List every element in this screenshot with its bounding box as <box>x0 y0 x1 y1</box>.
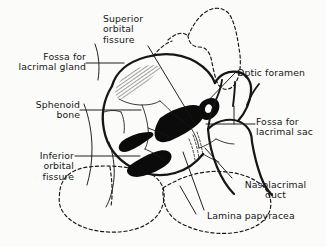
label-fossa-for-lacrimal-gland[interactable]: Fossa for lacrimal gland <box>2 52 86 73</box>
label-fossa-for-lacrimal-sac[interactable]: Fossa for lacrimal sac <box>256 117 326 138</box>
label-superior-orbital-fissure[interactable]: Superior orbital fissure <box>103 14 173 45</box>
label-lamina-papyracea[interactable]: Lamina papyracea <box>207 211 325 221</box>
inferior-orbital-fissure-shape <box>127 150 172 177</box>
orbit-anatomy-figure: Superior orbital fissure Fossa for lacri… <box>0 0 326 247</box>
leader-nasolacrimal-duct <box>205 148 232 178</box>
label-sphenoid-bone[interactable]: Sphenoid bone <box>2 100 80 121</box>
label-inferior-orbital-fissure[interactable]: Inferior orbital fissure <box>2 151 74 182</box>
label-optic-foramen[interactable]: Optic foramen <box>237 68 323 78</box>
leader-lamina-papyracea <box>183 152 204 210</box>
label-nasolacrimal-duct[interactable]: Nasolacrimal duct <box>228 180 323 201</box>
